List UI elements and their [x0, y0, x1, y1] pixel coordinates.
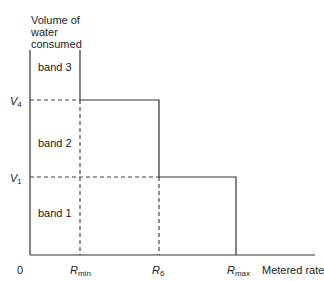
band-1-label: band 1	[38, 207, 72, 219]
v1-tick-label: V1	[10, 172, 22, 188]
band-2-label: band 2	[38, 137, 72, 149]
band-3-label: band 3	[38, 61, 72, 73]
y-axis-title-line-3: consumed	[31, 38, 82, 50]
x-axis-title: Metered rate	[262, 264, 324, 276]
origin-label: 0	[17, 264, 23, 276]
step-line	[80, 50, 236, 255]
rmin-tick-label: Rmin	[70, 264, 91, 280]
v4-tick-label: V4	[10, 95, 22, 111]
r6-tick-label: R6	[152, 264, 164, 280]
y-axis-title-line-2: water	[31, 26, 58, 38]
rmax-tick-label: Rmax	[227, 264, 250, 280]
y-axis-title-line-1: Volume of	[31, 14, 80, 26]
